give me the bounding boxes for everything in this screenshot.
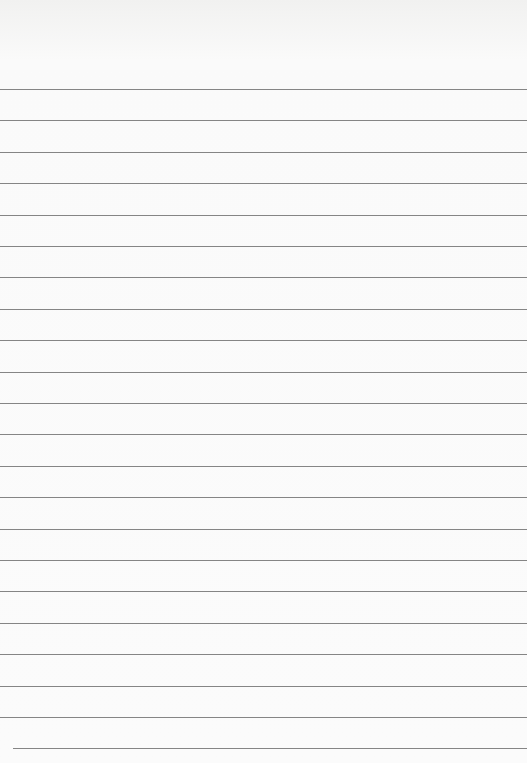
- ruled-line: [0, 277, 527, 278]
- ruled-line: [0, 183, 527, 184]
- ruled-line: [0, 152, 527, 153]
- ruled-line: [0, 623, 527, 624]
- ruled-line: [0, 372, 527, 373]
- ruled-line: [0, 246, 527, 247]
- ruled-line: [0, 340, 527, 341]
- ruled-line: [0, 686, 527, 687]
- ruled-line: [0, 215, 527, 216]
- ruled-line: [0, 309, 527, 310]
- ruled-line: [0, 654, 527, 655]
- lined-paper: [0, 0, 527, 763]
- ruled-line: [0, 560, 527, 561]
- ruled-line: [0, 529, 527, 530]
- ruled-line: [13, 748, 527, 749]
- ruled-line: [0, 89, 527, 90]
- ruled-line: [0, 591, 527, 592]
- ruled-line: [0, 403, 527, 404]
- ruled-line: [0, 434, 527, 435]
- ruled-line: [0, 120, 527, 121]
- ruled-line: [0, 717, 527, 718]
- ruled-line: [0, 466, 527, 467]
- ruled-line: [0, 497, 527, 498]
